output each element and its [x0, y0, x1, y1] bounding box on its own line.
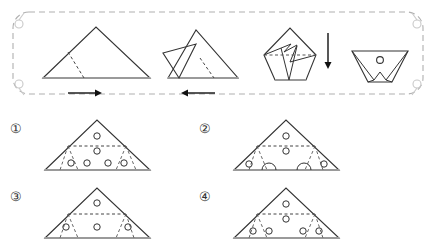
option-3-diagonal-creases: [60, 214, 134, 238]
fold-sequence-band: [0, 0, 436, 108]
option-2-diagonal-creases: [249, 146, 323, 170]
option-3-hole: [94, 200, 100, 206]
option-4-figure[interactable]: [234, 188, 339, 238]
option-2-label[interactable]: ②: [199, 122, 211, 135]
corner-marks-group: [15, 13, 421, 95]
corner-mark-top-right: [412, 13, 421, 28]
fold-step-3-both-flaps-folded: [264, 28, 316, 80]
option-4-hole: [266, 228, 272, 234]
option-2-hole: [321, 161, 327, 167]
option-4-hole: [250, 228, 256, 234]
options-svg: [0, 108, 436, 252]
option-1-label[interactable]: ①: [10, 122, 22, 135]
option-1-figure[interactable]: [45, 120, 150, 170]
option-1-hole: [121, 160, 127, 166]
option-1-hole: [84, 160, 90, 166]
answer-options-area: [0, 108, 436, 252]
option-3-label[interactable]: ③: [10, 190, 22, 203]
option-4-hole: [283, 201, 289, 207]
option-4-hole: [316, 228, 322, 234]
option-2-triangle-outline: [234, 120, 339, 170]
arrow-right-icon: [68, 90, 102, 97]
option-1-hole: [94, 133, 100, 139]
puzzle-canvas: ① ② ③ ④: [0, 0, 436, 252]
step2-triangle-outline: [168, 30, 238, 78]
step4-trapezoid-outline: [352, 51, 408, 82]
option-4-diagonal-creases: [249, 214, 323, 238]
step3-outline: [264, 28, 316, 80]
fold-step-1-unfolded-triangle: [43, 27, 150, 78]
option-2-base-notch: [297, 163, 311, 170]
dashed-frame: [13, 12, 423, 94]
step4-inner-fold-lines: [352, 51, 408, 80]
option-4-hole: [300, 228, 306, 234]
step1-fold-crease: [68, 52, 84, 78]
option-4-hole: [283, 216, 289, 222]
option-3-figure[interactable]: [45, 188, 150, 238]
step2-fold-crease: [200, 58, 214, 78]
arrow-down-icon: [325, 33, 332, 69]
corner-mark-bottom-right: [412, 80, 421, 95]
option-1-hole: [94, 148, 100, 154]
option-2-hole: [283, 148, 289, 154]
step4-punched-hole: [377, 57, 384, 64]
option-2-figure[interactable]: [234, 120, 339, 170]
option-1-triangle-outline: [45, 120, 150, 170]
option-2-hole: [283, 133, 289, 139]
fold-sequence-svg: [0, 0, 436, 108]
step2-folded-flap: [163, 44, 196, 78]
fold-step-4-final-with-hole: [352, 51, 408, 82]
option-4-label[interactable]: ④: [199, 190, 211, 203]
option-3-hole: [94, 224, 100, 230]
option-1-hole: [68, 160, 74, 166]
step1-triangle-outline: [43, 27, 150, 78]
option-1-hole: [105, 160, 111, 166]
fold-step-2-left-flap-folded: [163, 30, 238, 78]
corner-mark-bottom-left: [15, 80, 24, 95]
arrow-left-icon: [181, 90, 215, 97]
